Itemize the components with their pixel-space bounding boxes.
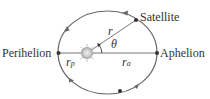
orbit-diagram: Satellite Perihelion Aphelion r θ rp ra bbox=[0, 0, 210, 99]
orbit-arrow-bottomright-icon bbox=[134, 84, 139, 89]
perihelion-dot bbox=[57, 51, 61, 55]
theta-label: θ bbox=[111, 38, 117, 50]
aphelion-label: Aphelion bbox=[160, 47, 205, 59]
theta-arc bbox=[99, 45, 102, 53]
perihelion-label: Perihelion bbox=[2, 47, 51, 59]
bottom-dot bbox=[118, 89, 122, 93]
orbit-arrow-top-icon bbox=[122, 11, 128, 16]
satellite-dot bbox=[134, 18, 138, 22]
aphelion-dot bbox=[155, 51, 159, 55]
ra-label: ra bbox=[122, 56, 131, 70]
r-label: r bbox=[108, 25, 113, 37]
rp-label: rp bbox=[66, 56, 75, 70]
satellite-label: Satellite bbox=[140, 11, 179, 23]
